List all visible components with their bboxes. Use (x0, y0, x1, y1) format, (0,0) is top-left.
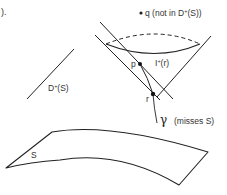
point-p-dot (138, 62, 142, 66)
label-q-text: q (not in D (145, 8, 184, 18)
point-r-dot (151, 92, 155, 96)
diagram-lines (0, 0, 227, 195)
label-q: q (not in D+(S)) (145, 9, 202, 18)
label-future-set: I+(r) (155, 59, 169, 68)
cone-rim-front (106, 44, 200, 54)
caption-fragment: ). (1, 8, 7, 17)
label-future-set-tail: (r) (161, 58, 170, 68)
point-q-dot (139, 11, 142, 14)
curve-p-to-r (140, 64, 153, 94)
label-surface-S: S (31, 151, 37, 160)
spacetime-diagram: ). q (not in D+(S)) D+(S) p I+(r) r γ (m… (0, 0, 227, 195)
label-r: r (146, 95, 149, 104)
label-domain: D+(S) (48, 84, 69, 93)
label-gamma-note: (misses S) (174, 117, 214, 126)
label-gamma: γ (160, 114, 167, 126)
label-domain-tail: (S) (57, 83, 68, 93)
curve-gamma (153, 94, 157, 123)
null-line-lower (95, 35, 160, 100)
label-q-tail: (S)) (187, 8, 201, 18)
label-p: p (131, 60, 136, 69)
